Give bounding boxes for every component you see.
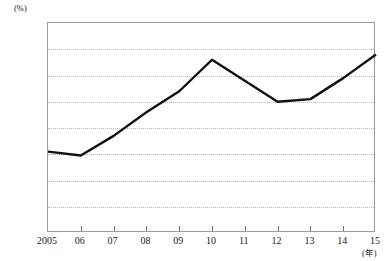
x-axis-tick-label: 2005	[37, 236, 57, 246]
x-axis-tick-label: 07	[108, 236, 118, 246]
x-axis-unit-label: (年)	[362, 246, 377, 258]
x-axis-tick-label: 10	[206, 236, 216, 246]
line-chart: (%) 65.064.063.062.061.060.059.058.057.0…	[0, 0, 386, 261]
x-axis-tick-label: 14	[337, 236, 347, 246]
x-axis-tick-label: 12	[272, 236, 282, 246]
y-axis-labels: 65.064.063.062.061.060.059.058.057.0	[0, 0, 386, 261]
x-axis-tick-label: 08	[140, 236, 150, 246]
x-axis-tick-label: 15	[370, 236, 380, 246]
x-axis-tick-label: 09	[173, 236, 183, 246]
x-axis-tick-label: 06	[75, 236, 85, 246]
x-axis-tick-label: 13	[304, 236, 314, 246]
x-axis-tick-label: 11	[239, 236, 249, 246]
